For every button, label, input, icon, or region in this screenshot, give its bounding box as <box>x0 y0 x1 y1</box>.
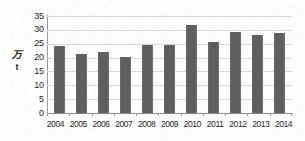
bar <box>208 42 219 113</box>
x-axis-tick-mark <box>158 113 180 117</box>
y-axis-tick-label: 30 <box>26 25 44 34</box>
x-axis-tick-mark <box>181 113 203 117</box>
x-axis-tick-label: 2011 <box>204 119 227 129</box>
bar-slot <box>115 16 137 113</box>
y-axis-tick-label: 5 <box>26 95 44 104</box>
x-axis-tick-label: 2004 <box>44 119 67 129</box>
bar <box>142 45 153 113</box>
bar-slot <box>93 16 115 113</box>
bar <box>54 46 65 113</box>
y-axis-tick-label: 10 <box>26 81 44 90</box>
y-axis-tick-label: 15 <box>26 67 44 76</box>
x-axis-tick-mark <box>203 113 225 117</box>
bar <box>76 54 87 113</box>
bar <box>186 25 197 113</box>
x-axis-tick-mark <box>225 113 247 117</box>
bar-slot <box>159 16 181 113</box>
y-axis-tick-label: 20 <box>26 53 44 62</box>
plot-area <box>47 16 292 113</box>
x-axis-tick-labels: 2004200520062007200820092010201120122013… <box>44 119 295 129</box>
x-axis-tick-label: 2013 <box>249 119 272 129</box>
bar-slot <box>71 16 93 113</box>
x-axis-tick-label: 2008 <box>135 119 158 129</box>
x-axis-tick-label: 2007 <box>112 119 135 129</box>
bar <box>164 45 175 113</box>
bar <box>120 57 131 113</box>
x-axis-tick-mark <box>136 113 158 117</box>
x-axis-tick-label: 2009 <box>158 119 181 129</box>
x-axis-tick-label: 2012 <box>227 119 250 129</box>
bar <box>98 52 109 113</box>
y-axis-unit-label: 万 t <box>6 48 28 74</box>
bar-slot <box>137 16 159 113</box>
bar <box>252 35 263 113</box>
y-axis-tick-labels: 05101520253035 <box>26 10 44 120</box>
x-axis-tick-mark <box>247 113 269 117</box>
bar <box>230 32 241 113</box>
x-axis-tick-label: 2010 <box>181 119 204 129</box>
bar-slot <box>202 16 224 113</box>
x-axis-tick-label: 2014 <box>272 119 295 129</box>
x-axis-tick-marks <box>47 113 292 117</box>
x-axis-tick-label: 2006 <box>90 119 113 129</box>
bar-slot <box>246 16 268 113</box>
y-axis-tick-label: 35 <box>26 12 44 21</box>
x-axis-tick-mark <box>47 113 69 117</box>
y-axis-tick-label: 25 <box>26 39 44 48</box>
bar-slot <box>268 16 290 113</box>
x-axis-tick-mark <box>92 113 114 117</box>
bar <box>274 33 285 113</box>
x-axis-tick-mark <box>270 113 292 117</box>
bar-slot <box>180 16 202 113</box>
bar-slot <box>224 16 246 113</box>
bar-chart: 万 t 05101520253035 200420052006200720082… <box>0 0 305 141</box>
y-axis-unit-ton: t <box>6 61 28 74</box>
x-axis-tick-mark <box>69 113 91 117</box>
y-axis-tick-label: 0 <box>26 109 44 118</box>
bar-slot <box>49 16 71 113</box>
y-axis-unit-wan: 万 <box>6 48 28 61</box>
bar-series <box>47 16 292 113</box>
x-axis-tick-label: 2005 <box>67 119 90 129</box>
x-axis-tick-mark <box>114 113 136 117</box>
